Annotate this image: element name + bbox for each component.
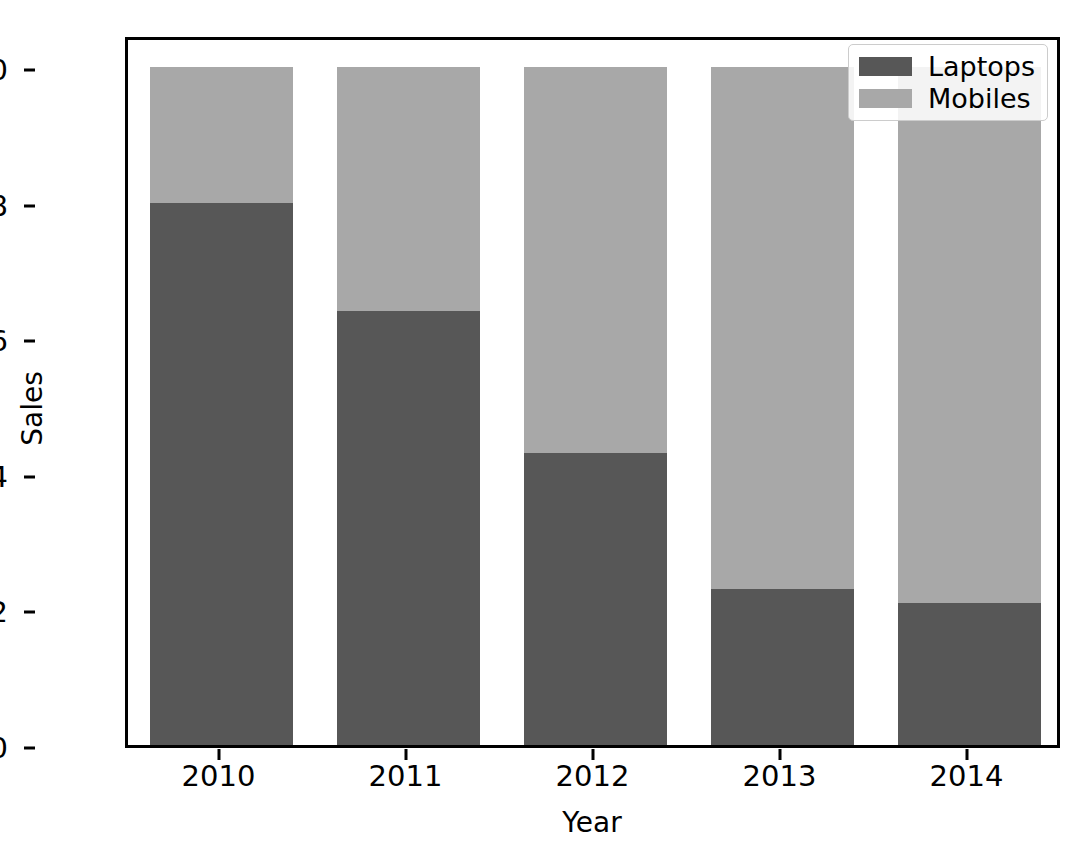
legend-label: Laptops — [928, 53, 1035, 80]
bar-segment-laptops[interactable] — [898, 603, 1041, 745]
y-tick-label: 0.2 — [0, 598, 8, 627]
x-tick-mark — [965, 749, 968, 760]
bar-segment-mobiles[interactable] — [150, 67, 293, 203]
y-tick-label: 0.8 — [0, 191, 8, 220]
y-tick-mark — [24, 747, 35, 750]
y-tick-mark — [24, 69, 35, 72]
legend-label: Mobiles — [928, 85, 1031, 112]
x-axis-label: Year — [562, 806, 621, 839]
bar-segment-mobiles[interactable] — [337, 67, 480, 311]
legend-item[interactable]: Laptops — [859, 53, 1037, 80]
bar-group[interactable] — [898, 40, 1041, 745]
y-tick-label: 0.6 — [0, 327, 8, 356]
figure-canvas: Sales 0.00.20.40.60.81.0 201020112012201… — [0, 0, 1092, 855]
y-tick-label: 0.4 — [0, 462, 8, 491]
x-tick-label: 2013 — [743, 759, 817, 793]
y-axis-label: Sales — [16, 371, 49, 446]
bar-group[interactable] — [524, 40, 667, 745]
bar-segment-mobiles[interactable] — [524, 67, 667, 453]
y-tick-mark — [24, 204, 35, 207]
legend-item[interactable]: Mobiles — [859, 85, 1037, 112]
x-tick-mark — [217, 749, 220, 760]
legend-swatch-icon — [859, 89, 912, 108]
x-tick-label: 2012 — [556, 759, 630, 793]
y-tick-mark — [24, 340, 35, 343]
bar-segment-laptops[interactable] — [337, 311, 480, 745]
y-tick-label: 1.0 — [0, 56, 8, 85]
plot-area — [125, 37, 1060, 748]
y-tick-label: 0.0 — [0, 734, 8, 763]
x-tick-label: 2011 — [369, 759, 443, 793]
x-tick-label: 2010 — [182, 759, 256, 793]
bar-segment-laptops[interactable] — [711, 589, 854, 745]
x-tick-mark — [778, 749, 781, 760]
bar-group[interactable] — [711, 40, 854, 745]
legend-swatch-icon — [859, 57, 912, 76]
bar-segment-mobiles[interactable] — [898, 67, 1041, 603]
x-tick-label: 2014 — [930, 759, 1004, 793]
x-tick-mark — [591, 749, 594, 760]
y-tick-mark — [24, 475, 35, 478]
bar-segment-mobiles[interactable] — [711, 67, 854, 589]
bar-group[interactable] — [337, 40, 480, 745]
bar-segment-laptops[interactable] — [150, 203, 293, 745]
bars-layer — [128, 40, 1057, 745]
bar-segment-laptops[interactable] — [524, 453, 667, 745]
x-tick-mark — [404, 749, 407, 760]
y-tick-mark — [24, 611, 35, 614]
legend: LaptopsMobiles — [848, 44, 1048, 121]
bar-group[interactable] — [150, 40, 293, 745]
